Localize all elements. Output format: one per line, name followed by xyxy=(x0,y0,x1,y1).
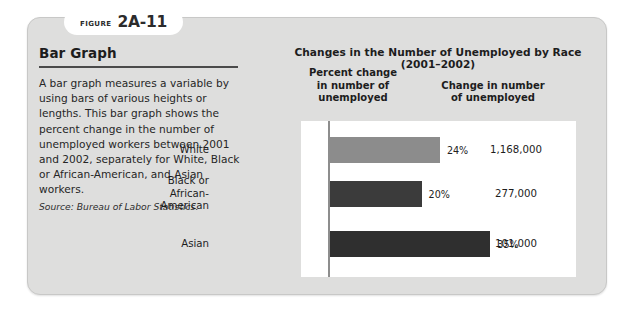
panel-title: Bar Graph xyxy=(39,45,251,66)
chart-bar-row: 20% xyxy=(330,181,450,207)
chart-column-headers: Percent change in number of unemployed C… xyxy=(278,67,608,105)
chart-category-label: White xyxy=(123,144,209,156)
chart-bar xyxy=(330,137,440,163)
column-header-change-line1: Change in number xyxy=(428,80,558,93)
column-header-percent-line1: Percent change xyxy=(278,67,428,80)
chart-count-value: 1,168,000 xyxy=(456,144,576,155)
title-divider xyxy=(39,66,238,68)
chart-category-label-line: American xyxy=(123,200,209,212)
figure-card: FIGURE 2A-11 Bar Graph A bar graph measu… xyxy=(27,17,607,295)
chart-bar xyxy=(330,181,422,207)
column-header-change-count: Change in number of unemployed xyxy=(428,67,558,105)
chart-category-label-line: Black or xyxy=(123,175,209,187)
chart-category-label-line: White xyxy=(123,144,209,156)
chart-bar-percent-label: 20% xyxy=(429,189,450,200)
chart-category-label: Asian xyxy=(123,238,209,250)
chart-bar-row: 24% xyxy=(330,137,468,163)
chart-category-label-line: Asian xyxy=(123,238,209,250)
chart-category-label: Black orAfrican-American xyxy=(123,175,209,212)
column-header-percent-line3: unemployed xyxy=(278,92,428,105)
column-header-change-line2: of unemployed xyxy=(428,92,558,105)
chart-count-value: 101,000 xyxy=(456,238,576,249)
figure-badge-number: 2A-11 xyxy=(117,13,167,31)
column-header-percent-line2: in number of xyxy=(278,80,428,93)
figure-badge-word: FIGURE xyxy=(80,17,111,28)
chart-category-label-line: African- xyxy=(123,188,209,200)
column-header-percent-change: Percent change in number of unemployed xyxy=(278,67,428,105)
chart-count-value: 277,000 xyxy=(456,188,576,199)
figure-badge: FIGURE 2A-11 xyxy=(64,9,183,35)
